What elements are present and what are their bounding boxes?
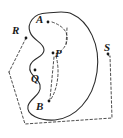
point-marker-s	[107, 53, 110, 56]
geometry-figure: A P Q B R S	[0, 0, 123, 138]
label-point-p: P	[55, 48, 62, 59]
point-marker-p	[52, 52, 55, 55]
dashed-inner-chord	[66, 28, 67, 46]
label-point-s: S	[104, 42, 110, 53]
label-point-a: A	[36, 14, 43, 25]
dashed-polygon-path	[9, 56, 112, 124]
figure-canvas	[0, 0, 123, 138]
point-marker-r	[25, 37, 28, 40]
dashed-path-p-to-b	[50, 57, 54, 99]
point-marker-b	[48, 100, 51, 103]
dashed-leader-r	[9, 38, 26, 72]
point-marker-q	[34, 69, 37, 72]
label-point-r: R	[12, 25, 19, 36]
point-marker-a	[47, 21, 50, 24]
label-point-b: B	[36, 101, 43, 112]
label-point-q: Q	[31, 73, 39, 84]
